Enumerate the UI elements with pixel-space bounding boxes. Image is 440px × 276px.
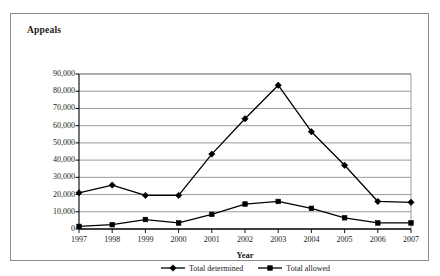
- x-axis-tick-label: 2006: [370, 235, 386, 244]
- chart-figure-frame: Appeals 010,00020,00030,00040,00050,0006…: [10, 13, 429, 261]
- y-axis-tick-label: 70,000: [53, 104, 75, 112]
- y-axis-tick-label: 0: [71, 225, 75, 233]
- x-axis-tick-label: 1998: [104, 235, 120, 244]
- plot-area: [79, 74, 411, 229]
- x-axis-tick-label: 2004: [303, 235, 319, 244]
- x-axis-tick-label: 2005: [337, 235, 353, 244]
- y-axis-tick-label: 50,000: [53, 139, 75, 147]
- x-axis-tick-label: 2007: [403, 235, 419, 244]
- x-axis-tick-label: 2001: [204, 235, 220, 244]
- chart-title: Appeals: [27, 25, 61, 35]
- x-axis-title: Year: [79, 250, 411, 260]
- legend-diamond-marker-icon: [160, 263, 186, 273]
- x-axis-tick-label: 2003: [270, 235, 286, 244]
- y-axis-tick-label: 80,000: [53, 87, 75, 95]
- legend-label: Total determined: [189, 264, 243, 273]
- legend-entry[interactable]: Total determined: [160, 263, 243, 273]
- legend-label: Total allowed: [286, 264, 330, 273]
- x-axis-tick-labels: 1997199819992000200120022003200420052006…: [79, 235, 411, 249]
- y-axis-tick-label: 10,000: [53, 208, 75, 216]
- y-axis-tick-label: 30,000: [53, 173, 75, 181]
- gridlines: [79, 74, 411, 212]
- chart-legend: Total determinedTotal allowed: [79, 263, 411, 273]
- chart-plot-svg: [79, 74, 411, 229]
- data-series-layer: [76, 82, 414, 229]
- x-axis-tick-label: 1999: [137, 235, 153, 244]
- y-axis-tick-label: 20,000: [53, 191, 75, 199]
- x-axis-tick-label: 1997: [71, 235, 87, 244]
- x-axis-tick-label: 2002: [237, 235, 253, 244]
- x-axis-tick-label: 2000: [171, 235, 187, 244]
- y-axis-tick-label: 90,000: [53, 70, 75, 78]
- y-axis-tick-labels: 010,00020,00030,00040,00050,00060,00070,…: [29, 74, 75, 229]
- legend-entry[interactable]: Total allowed: [257, 263, 330, 273]
- legend-square-marker-icon: [257, 263, 283, 273]
- y-axis-tick-label: 40,000: [53, 156, 75, 164]
- y-axis-tick-label: 60,000: [53, 122, 75, 130]
